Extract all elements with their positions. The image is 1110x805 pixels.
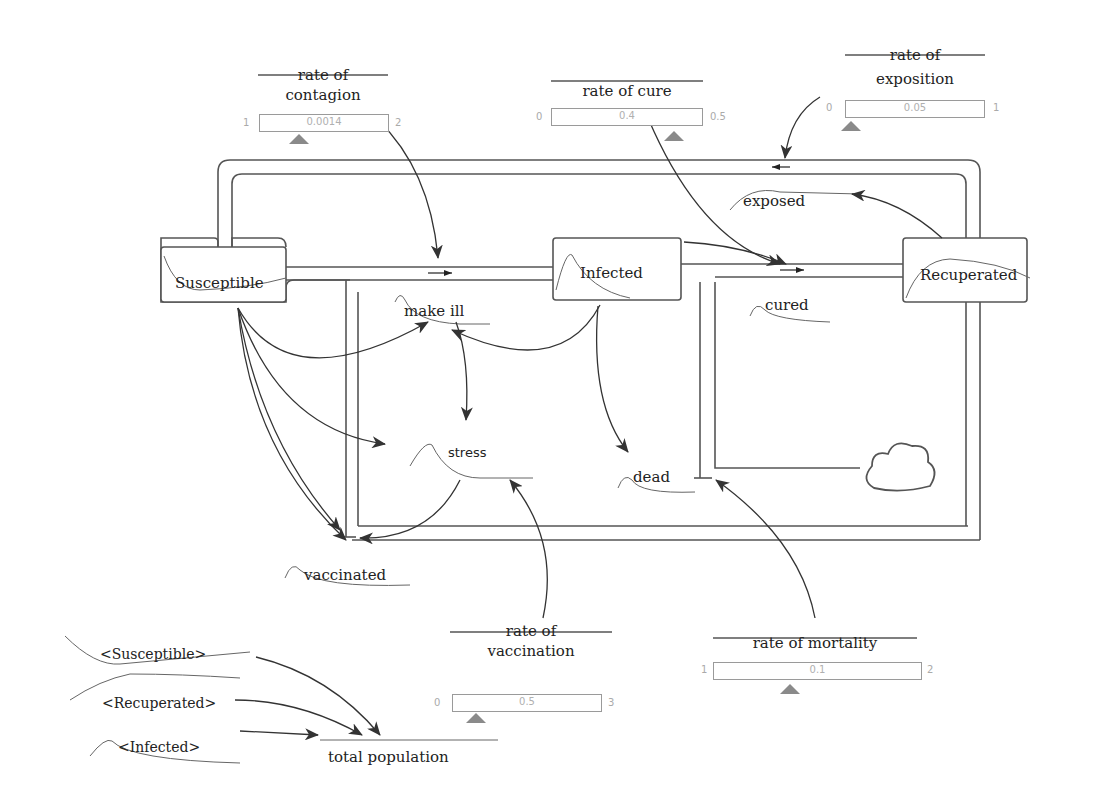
param-contagion-min: 1 <box>243 117 249 128</box>
cloud-icon <box>866 443 934 490</box>
shadow-recuperated-label: <Recuperated> <box>102 694 216 712</box>
param-vaccination-value: 0.5 <box>453 696 601 707</box>
param-exposition-max: 1 <box>993 102 999 113</box>
stock-susceptible-label: Susceptible <box>175 274 264 292</box>
param-cure-slider[interactable]: 0.4 <box>551 108 703 126</box>
param-exposition-title-1: rate of <box>845 46 985 64</box>
flow-make-ill-label: make ill <box>404 302 464 320</box>
stock-susceptible[interactable] <box>161 238 350 302</box>
exposed-pipe <box>218 160 980 247</box>
variable-stress-label: stress <box>448 444 486 462</box>
param-cure-value: 0.4 <box>552 110 702 121</box>
param-vaccination-title-1: rate of <box>450 622 612 640</box>
flow-dead-label: dead <box>633 468 670 486</box>
make-ill-pipe <box>286 267 553 280</box>
param-vaccination-slider[interactable]: 0.5 <box>452 694 602 712</box>
param-vaccination-max: 3 <box>608 697 614 708</box>
param-mortality-max: 2 <box>927 664 933 675</box>
param-mortality-title-1: rate of mortality <box>713 634 917 652</box>
param-exposition-title-2: exposition <box>845 70 985 88</box>
param-exposition-slider[interactable]: 0.05 <box>845 100 985 118</box>
param-vaccination-min: 0 <box>434 697 440 708</box>
shadow-susceptible-label: <Susceptible> <box>100 645 206 663</box>
flow-cured-label: cured <box>765 296 809 314</box>
param-exposition-min: 0 <box>826 102 832 113</box>
param-cure-title-1: rate of cure <box>551 82 703 100</box>
param-mortality-thumb[interactable] <box>780 684 800 694</box>
param-contagion-title-1: rate of <box>258 66 388 84</box>
param-vaccination-thumb[interactable] <box>466 713 486 723</box>
flow-vaccinated-label: vaccinated <box>304 566 386 584</box>
stock-infected-label: Infected <box>580 264 643 282</box>
variable-total-population-label: total population <box>328 748 449 766</box>
param-cure-thumb[interactable] <box>664 131 684 141</box>
param-contagion-max: 2 <box>395 117 401 128</box>
param-contagion-slider[interactable]: 0.0014 <box>259 114 389 132</box>
flow-exposed-label: exposed <box>743 192 805 210</box>
param-exposition-value: 0.05 <box>846 102 984 113</box>
stock-recuperated-label: Recuperated <box>920 266 1017 284</box>
param-contagion-thumb[interactable] <box>289 134 309 144</box>
param-mortality-slider[interactable]: 0.1 <box>713 662 922 680</box>
param-contagion-value: 0.0014 <box>260 116 388 127</box>
param-cure-max: 0.5 <box>710 111 726 122</box>
param-cure-min: 0 <box>536 111 542 122</box>
shadow-infected-label: <Infected> <box>118 738 200 756</box>
param-exposition-thumb[interactable] <box>841 121 861 131</box>
param-contagion-title-2: contagion <box>258 86 388 104</box>
param-mortality-value: 0.1 <box>714 664 921 675</box>
param-vaccination-title-2: vaccination <box>450 642 612 660</box>
param-mortality-min: 1 <box>701 664 707 675</box>
